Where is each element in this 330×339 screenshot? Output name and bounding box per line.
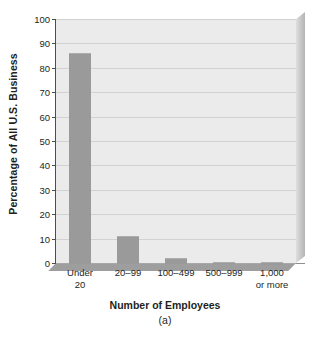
bar-chart-figure: Percentage of All U.S. Business 01020304…	[0, 0, 330, 339]
x-tick-label: 100–499	[158, 267, 195, 279]
gridline	[56, 43, 296, 44]
x-tick-label-line: 20–99	[115, 267, 141, 279]
gridline	[56, 19, 296, 20]
y-tick-label: 0	[45, 258, 50, 269]
gridline	[56, 190, 296, 191]
bar	[117, 236, 139, 264]
bar	[165, 258, 187, 264]
bar	[213, 262, 235, 265]
plot-area: 0102030405060708090100 Under2020–99100–4…	[56, 19, 304, 263]
y-tick-mark	[52, 68, 56, 69]
x-tick-label-line: 20	[67, 279, 93, 291]
y-tick-mark	[52, 190, 56, 191]
y-tick-label: 40	[39, 160, 50, 171]
gridline	[56, 141, 296, 142]
gridline	[56, 214, 296, 215]
x-axis-title: Number of Employees	[0, 299, 330, 311]
y-tick-label: 60	[39, 111, 50, 122]
y-tick-mark	[52, 239, 56, 240]
y-tick-label: 50	[39, 136, 50, 147]
y-tick-mark	[52, 141, 56, 142]
gridline	[56, 92, 296, 93]
y-tick-label: 90	[39, 38, 50, 49]
y-tick-mark	[52, 214, 56, 215]
y-tick-label: 30	[39, 184, 50, 195]
y-axis-title-text: Percentage of All U.S. Business	[7, 53, 19, 214]
gridline	[56, 239, 296, 240]
gridline	[56, 117, 296, 118]
x-tick-label-line: or more	[256, 279, 289, 291]
gridline	[56, 165, 296, 166]
x-tick-label: 500–999	[206, 267, 243, 279]
gridline	[56, 68, 296, 69]
y-tick-label: 80	[39, 62, 50, 73]
y-tick-label: 20	[39, 209, 50, 220]
x-tick-label: 20–99	[115, 267, 141, 279]
y-tick-mark	[52, 117, 56, 118]
x-tick-label: Under20	[67, 267, 93, 290]
plot-3d-right-panel	[296, 12, 305, 263]
bar	[69, 53, 91, 264]
y-axis-title: Percentage of All U.S. Business	[0, 0, 26, 268]
bar	[261, 262, 283, 265]
y-tick-mark	[52, 165, 56, 166]
figure-caption: (a)	[0, 314, 330, 326]
x-tick-label: 1,000or more	[256, 267, 289, 290]
y-tick-mark	[52, 43, 56, 44]
y-tick-mark	[52, 263, 56, 264]
x-tick-label-line: 100–499	[158, 267, 195, 279]
y-tick-label: 10	[39, 233, 50, 244]
y-tick-mark	[52, 19, 56, 20]
x-tick-label-line: 500–999	[206, 267, 243, 279]
x-tick-label-line: 1,000	[256, 267, 289, 279]
y-tick-mark	[52, 92, 56, 93]
y-tick-label: 70	[39, 87, 50, 98]
y-tick-label: 100	[34, 14, 50, 25]
x-tick-label-line: Under	[67, 267, 93, 279]
